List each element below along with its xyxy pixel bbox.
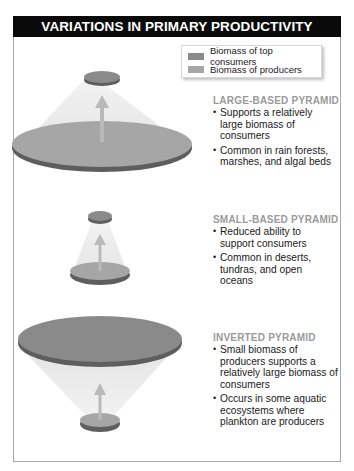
small-based-pyramid-description: SMALL-BASED PYRAMID •Reduced ability to …	[213, 214, 338, 290]
bullet-item: •Small biomass of producers supports a r…	[213, 344, 340, 390]
bullet-icon: •	[213, 145, 220, 168]
bullet-text: Occurs in some aquatic ecosystems where …	[220, 393, 340, 428]
section-title: LARGE-BASED PYRAMID	[213, 95, 339, 106]
bullet-item: •Common in rain forests, marshes, and al…	[213, 145, 339, 168]
bullet-text: Reduced ability to support consumers	[220, 226, 335, 249]
bullet-item: •Occurs in some aquatic ecosystems where…	[213, 393, 340, 428]
bullet-icon: •	[213, 344, 220, 390]
bullet-item: •Supports a relatively large biomass of …	[213, 107, 339, 142]
bullet-item: •Reduced ability to support consumers	[213, 226, 338, 249]
section-title: SMALL-BASED PYRAMID	[213, 214, 338, 225]
section-title: INVERTED PYRAMID	[213, 332, 340, 343]
bullet-text: Common in rain forests, marshes, and alg…	[220, 145, 335, 168]
inverted-pyramid-icon	[18, 316, 182, 432]
bullet-text: Common in deserts, tundras, and open oce…	[220, 252, 335, 287]
bullet-item: •Common in deserts, tundras, and open oc…	[213, 252, 338, 287]
bullet-icon: •	[213, 252, 220, 287]
small-based-pyramid-icon	[70, 211, 130, 285]
large-based-pyramid-icon	[12, 71, 192, 172]
bullet-text: Supports a relatively large biomass of c…	[220, 107, 335, 142]
bullet-icon: •	[213, 226, 220, 249]
bullet-icon: •	[213, 107, 220, 142]
large-based-pyramid-description: LARGE-BASED PYRAMID •Supports a relative…	[213, 95, 339, 171]
inverted-pyramid-description: INVERTED PYRAMID •Small biomass of produ…	[213, 332, 340, 431]
bullet-icon: •	[213, 393, 220, 428]
bullet-text: Small biomass of producers supports a re…	[220, 344, 340, 390]
